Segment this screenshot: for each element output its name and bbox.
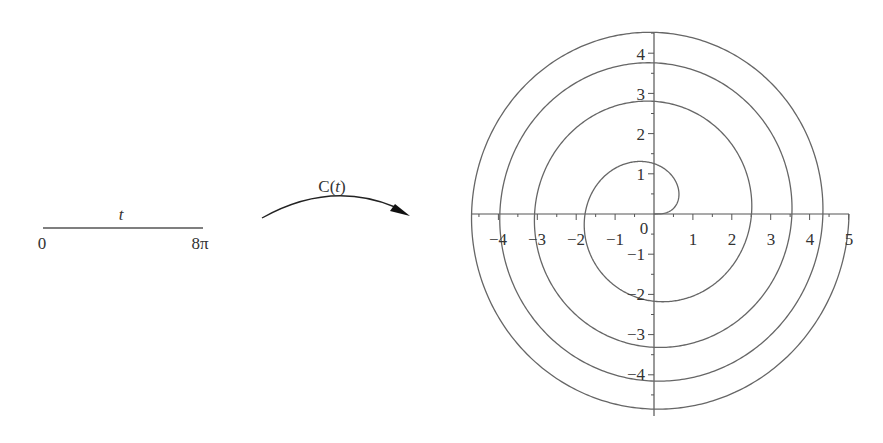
domain-interval: t 0 8π [38,205,209,253]
y-tick-label: −2 [627,285,645,304]
y-tick-label: 1 [637,165,646,184]
x-tick-label: 5 [845,230,854,249]
arrow-curve [262,196,395,218]
spiral-plot: 0 −4 −3 −2 −1 1 2 3 4 5 4 3 2 1 −1 −2 −3… [472,32,854,416]
y-tick-label: −3 [627,325,645,344]
interval-start-label: 0 [38,234,47,253]
interval-variable-label: t [119,205,125,224]
x-tick-label: −4 [489,230,508,249]
origin-label: 0 [640,219,649,238]
y-tick-label: −4 [627,365,646,384]
mapping-label: C(t) [318,177,345,196]
y-tick-label: 4 [637,45,646,64]
y-tick-label: 3 [637,85,646,104]
x-tick-label: 1 [689,230,698,249]
mapping-arrow: C(t) [262,177,410,218]
x-tick-label: 3 [767,230,776,249]
x-tick-label: 4 [806,230,815,249]
interval-end-label: 8π [191,234,209,253]
x-tick-label: −1 [606,230,624,249]
y-tick-label: −1 [627,245,645,264]
spiral-curve [472,32,849,409]
x-tick-label: −2 [567,230,585,249]
y-tick-label: 2 [637,125,646,144]
diagram-canvas: t 0 8π C(t) 0 −4 −3 −2 −1 1 2 3 4 5 4 3 … [0,0,883,443]
x-tick-label: −3 [528,230,546,249]
x-tick-label: 2 [728,230,737,249]
